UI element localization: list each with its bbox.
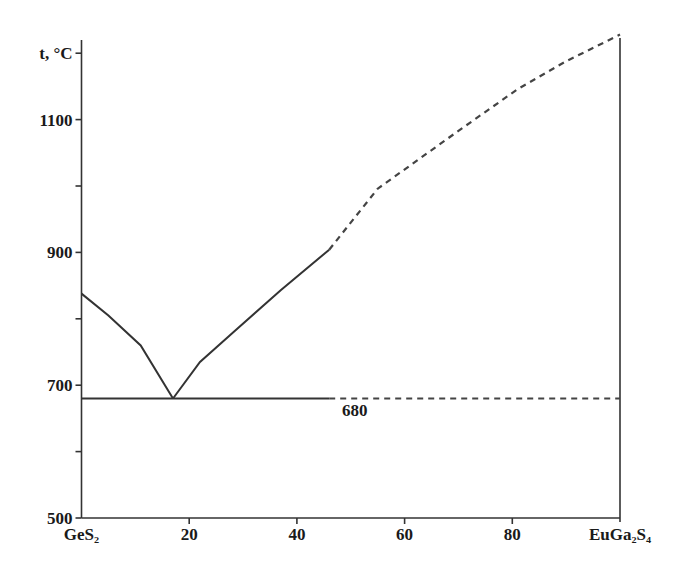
liquidus-GeS2-side-line [82,294,174,399]
x-tick-label: GeS₂ [64,525,99,544]
y-tick-label: 900 [47,243,73,262]
x-tick-label: 40 [288,525,305,544]
curves [82,35,621,399]
phase-diagram: 5007009001100t, °CGeS₂20406080EuGa₂S₄680 [0,0,682,575]
y-tick-label: 1100 [39,111,72,130]
y-tick-label: t, °C [39,44,72,63]
x-tick-label: 20 [181,525,198,544]
axes [82,38,621,522]
y-tick-label: 700 [47,376,73,395]
labels: 5007009001100t, °CGeS₂20406080EuGa₂S₄680 [39,44,651,544]
ticks [76,53,513,524]
x-tick-label: EuGa₂S₄ [589,525,651,544]
x-tick-label: 80 [504,525,521,544]
x-tick-label: 60 [396,525,413,544]
liquidus-EuGa2S4-side-extrapolated-line [329,35,620,250]
liquidus-EuGa2S4-side-line [173,250,329,399]
eutectic-temperature-label: 680 [342,401,368,420]
